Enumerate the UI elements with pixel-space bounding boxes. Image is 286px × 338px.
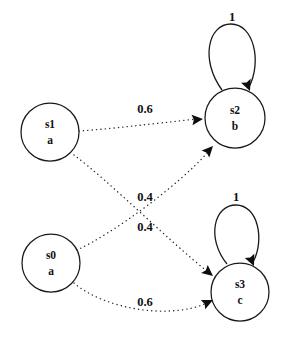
node-output-label: b [232, 120, 238, 132]
self-loop-weight-label: 1 [229, 10, 235, 24]
self-loop-line [215, 205, 259, 264]
node-output-label: a [47, 134, 53, 146]
node-circle[interactable] [22, 234, 80, 292]
self-loop-s3 [215, 205, 259, 268]
node-output-label: a [48, 265, 54, 277]
node-circle[interactable] [205, 88, 265, 148]
self-loop-s2 [209, 24, 255, 93]
node-circle[interactable] [21, 103, 79, 161]
node-name-label: s3 [235, 278, 245, 290]
edge-line [74, 155, 208, 272]
node-name-label: s2 [230, 104, 240, 116]
state-node-s0[interactable]: s0a [22, 234, 80, 292]
edge-s1-to-s2 [79, 114, 203, 131]
arrowhead-icon [202, 142, 217, 157]
self-loop-weight-label: 1 [233, 190, 239, 204]
node-circle[interactable] [211, 263, 269, 321]
edge-weight-label: 0.6 [137, 102, 153, 116]
diagram-canvas: s1as2bs0as3c 0.60.40.40.611 [0, 0, 286, 338]
state-node-s2[interactable]: s2b [205, 88, 265, 148]
state-node-s3[interactable]: s3c [211, 263, 269, 321]
labels-layer: 0.60.40.40.611 [137, 10, 239, 309]
node-name-label: s0 [46, 249, 56, 261]
node-output-label: c [237, 294, 242, 306]
state-diagram: s1as2bs0as3c 0.60.40.40.611 [0, 0, 286, 338]
edge-weight-label: 0.4 [137, 220, 153, 234]
edge-line [79, 119, 197, 131]
edges-layer [74, 114, 217, 311]
state-node-s1[interactable]: s1a [21, 103, 79, 161]
nodes-layer: s1as2bs0as3c [21, 88, 269, 321]
edge-s1-to-s3 [74, 155, 216, 280]
node-name-label: s1 [45, 118, 55, 130]
edge-weight-label: 0.6 [137, 295, 153, 309]
edge-weight-label: 0.4 [137, 190, 153, 204]
self-loop-line [209, 24, 255, 90]
